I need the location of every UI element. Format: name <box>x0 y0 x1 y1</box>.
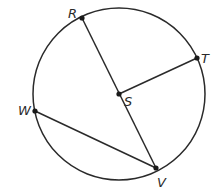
label-s: S <box>124 94 132 109</box>
label-w: W <box>18 103 32 118</box>
point-v <box>153 165 158 170</box>
label-t: T <box>201 51 210 66</box>
label-r: R <box>68 6 77 21</box>
chord-wv <box>35 111 156 168</box>
point-t <box>194 55 199 60</box>
point-r <box>79 15 84 20</box>
diagram-canvas: R T S W V <box>0 0 216 195</box>
circle-diagram: R T S W V <box>0 0 216 195</box>
label-v: V <box>157 175 167 190</box>
point-s <box>116 91 121 96</box>
radius-st <box>119 58 197 94</box>
point-w <box>32 108 37 113</box>
